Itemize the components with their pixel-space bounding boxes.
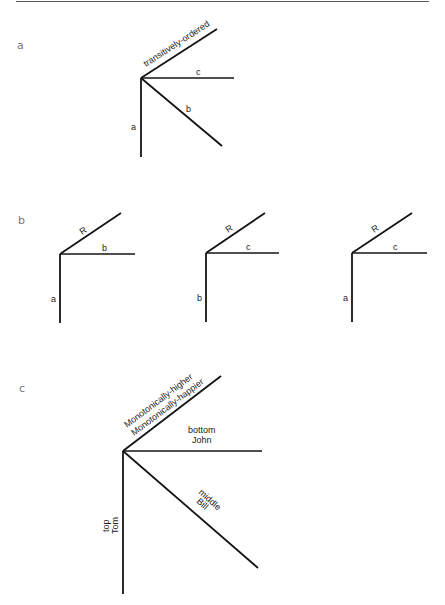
label-horizontal: c xyxy=(246,242,251,252)
panel-b-label: b xyxy=(18,214,25,227)
edge-middle-bill xyxy=(123,451,258,568)
panel-a: a transitively-ordered c b a xyxy=(17,19,234,157)
label-horizontal: c xyxy=(393,242,398,252)
edge-R xyxy=(352,213,412,253)
panel-a-label: a xyxy=(17,39,24,52)
label-tom: Tom xyxy=(110,517,120,534)
label-R: R xyxy=(224,222,235,234)
label-b: b xyxy=(186,104,191,114)
panel-b: b R b a R c b R c a xyxy=(18,213,427,323)
label-a: a xyxy=(131,122,136,132)
label-horizontal: b xyxy=(102,243,107,253)
panel-c-label: c xyxy=(19,382,25,395)
label-bottom: bottom xyxy=(188,425,216,435)
label-transitively-ordered: transitively-ordered xyxy=(142,19,212,69)
label-c: c xyxy=(196,67,201,77)
label-vertical: a xyxy=(343,293,348,303)
edge-b xyxy=(141,78,222,146)
panel-b-subfigure-2: R c b xyxy=(197,213,279,322)
figure-canvas: a transitively-ordered c b a b R b a R c… xyxy=(0,0,445,605)
panel-b-subfigure-1: R b a xyxy=(51,213,135,323)
label-vertical: a xyxy=(51,294,56,304)
panel-c: c Monotonically-higher Monotonically-hap… xyxy=(19,372,262,594)
label-john: John xyxy=(192,435,212,445)
edge-R xyxy=(206,213,265,253)
label-R: R xyxy=(370,222,381,234)
label-vertical: b xyxy=(197,293,202,303)
edge-R xyxy=(60,213,121,254)
panel-b-subfigure-3: R c a xyxy=(343,213,427,322)
